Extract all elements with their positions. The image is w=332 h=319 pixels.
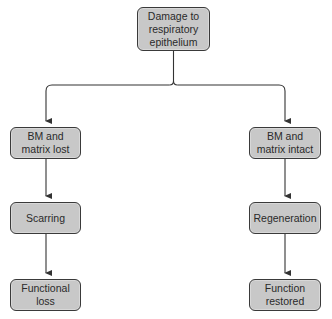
node-functional-loss: Functional loss xyxy=(10,279,81,311)
right-branch-line xyxy=(178,85,286,121)
node-regeneration: Regeneration xyxy=(249,202,321,234)
flowchart-diagram: Damage to respiratory epithelium BM and … xyxy=(0,0,332,319)
node-bm-matrix-lost: BM and matrix lost xyxy=(10,127,81,159)
root-node-damage-to-respiratory-epithelium: Damage to respiratory epithelium xyxy=(137,7,210,51)
left-branch-line xyxy=(46,85,170,121)
node-scarring: Scarring xyxy=(10,202,81,234)
node-bm-matrix-intact: BM and matrix intact xyxy=(249,127,321,159)
node-function-restored: Function restored xyxy=(249,279,321,311)
root-stem-line xyxy=(170,50,174,85)
